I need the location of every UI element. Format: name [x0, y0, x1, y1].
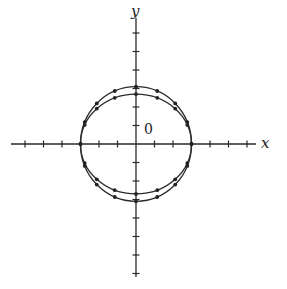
curve-point [190, 142, 194, 146]
curve-point [134, 92, 138, 96]
curve-point [185, 123, 189, 127]
origin-label: 0 [144, 121, 153, 137]
curve-point [173, 183, 177, 187]
curve-point [155, 89, 159, 93]
curve-point [134, 199, 138, 203]
curve-point [155, 96, 159, 100]
curve-point [173, 177, 177, 181]
curve-point [79, 142, 83, 146]
curve-point [83, 161, 87, 165]
curve-point [173, 102, 177, 106]
x-axis-label: x [261, 134, 270, 152]
curve-point [134, 192, 138, 196]
axes [11, 18, 256, 277]
curve-point [113, 188, 117, 192]
curve-point [113, 89, 117, 93]
curve-point [95, 102, 99, 106]
curve-point [155, 188, 159, 192]
coordinate-diagram: x y 0 [0, 0, 287, 289]
curve-point [113, 195, 117, 199]
y-axis-label: y [130, 2, 140, 20]
curve-point [95, 183, 99, 187]
curve-point [155, 195, 159, 199]
curve-point [113, 96, 117, 100]
curve-point [185, 161, 189, 165]
curve-point [95, 107, 99, 111]
curve-point [95, 177, 99, 181]
curve-point [134, 85, 138, 89]
curve-point [83, 123, 87, 127]
curve-point [173, 107, 177, 111]
